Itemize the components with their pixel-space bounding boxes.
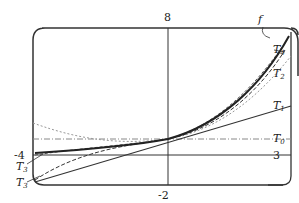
plot-frame [33,28,298,185]
label-f: f [258,14,262,25]
label-x-minus2: -2 [158,190,169,201]
curve-T4 [35,40,287,155]
label-T0: T0 [273,133,285,146]
curve-T3 [35,50,285,180]
curve-f [35,36,289,153]
label-T1: T1 [273,100,285,113]
label-T3-lower: T3 [16,177,28,190]
plot-area [0,0,299,203]
label-T4: T4 [273,44,285,57]
curve-T2 [33,56,291,141]
label-T2: T2 [273,68,285,81]
label-y-8: 8 [164,12,171,23]
label-T3-upper: T3 [16,161,28,174]
label-right-3: 3 [273,150,280,161]
curve-T1 [35,106,291,182]
